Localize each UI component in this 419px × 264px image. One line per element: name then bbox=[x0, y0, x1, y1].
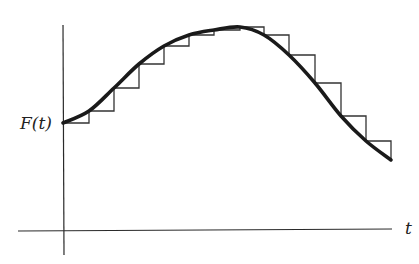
step-function bbox=[63, 27, 391, 160]
horizontal-axis bbox=[18, 229, 392, 231]
vertical-axis bbox=[63, 25, 64, 255]
curve-f-of-t bbox=[63, 27, 391, 160]
diagram-canvas: F(t) t bbox=[0, 0, 419, 264]
y-axis-label: F(t) bbox=[19, 113, 52, 133]
x-axis-label: t bbox=[405, 218, 412, 238]
